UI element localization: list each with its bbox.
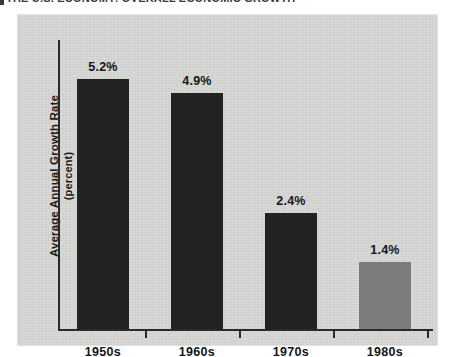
x-axis-line	[58, 329, 433, 331]
bar-value-label: 1.4%	[345, 243, 425, 257]
bar-group[interactable]: 1.4%	[359, 38, 411, 329]
x-axis-tick	[239, 331, 241, 338]
x-axis-tick	[145, 331, 147, 338]
bar-rect[interactable]	[359, 262, 411, 329]
bar-rect[interactable]	[77, 79, 129, 329]
bar-group[interactable]: 4.9%	[171, 38, 223, 329]
x-axis-label-1980s: 1980s	[340, 345, 430, 357]
chart-panel: Average Annual Growth Rate (percent) 5.2…	[18, 15, 437, 345]
bar-group[interactable]: 2.4%	[265, 38, 317, 329]
x-axis-tick	[427, 331, 429, 338]
bar-group[interactable]: 5.2%	[77, 38, 129, 329]
caption-bullet-icon	[0, 0, 4, 5]
plot-area: 5.2% 4.9% 2.4% 1.4% 1950s 1960s 1970s 19…	[58, 40, 433, 331]
bar-value-label: 2.4%	[251, 194, 331, 208]
x-axis-label-1950s: 1950s	[58, 345, 148, 357]
x-axis-label-1960s: 1960s	[152, 345, 242, 357]
x-axis-tick	[333, 331, 335, 338]
bar-rect[interactable]	[265, 213, 317, 329]
cropped-page-caption: THE U.S. ECONOMY: OVERALL ECONOMIC GROWT…	[0, 0, 455, 7]
y-axis-line	[58, 40, 60, 331]
bar-rect[interactable]	[171, 93, 223, 329]
bar-value-label: 4.9%	[157, 74, 237, 88]
bar-value-label: 5.2%	[63, 60, 143, 74]
caption-text: THE U.S. ECONOMY: OVERALL ECONOMIC GROWT…	[6, 0, 296, 4]
x-axis-label-1970s: 1970s	[246, 345, 336, 357]
